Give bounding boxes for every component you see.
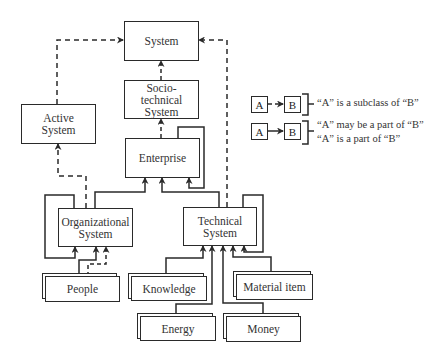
legend-box-b: B [284, 123, 301, 140]
legend-subclass-text: “A” is a subclass of “B” [317, 97, 419, 108]
node-label: Enterprise [139, 152, 186, 164]
node-label: Energy [161, 323, 194, 335]
node-material-item: Material item [236, 274, 313, 300]
node-system: System [124, 21, 199, 61]
legend-label: A [256, 126, 264, 138]
legend-label: B [289, 99, 296, 111]
node-energy: Energy [140, 316, 216, 341]
node-socio-technical-system: Socio- technical System [124, 80, 199, 119]
node-organizational-system: Organizational System [58, 208, 133, 247]
legend-box-a: A [251, 123, 268, 140]
legend-box-b: B [284, 96, 301, 113]
legend-is-part-text: “A” is a part of “B” [317, 133, 400, 144]
node-label: People [67, 283, 98, 295]
node-enterprise: Enterprise [125, 138, 200, 178]
node-people: People [45, 276, 120, 302]
node-technical-system: Technical System [183, 207, 257, 246]
node-money: Money [226, 316, 301, 342]
node-knowledge: Knowledge [131, 276, 207, 301]
legend-label: A [256, 99, 264, 111]
node-label: Technical System [198, 215, 243, 239]
legend-box-a: A [251, 96, 268, 113]
node-label: Material item [243, 281, 305, 293]
node-label: Money [247, 323, 280, 335]
node-active-system: Active System [21, 104, 96, 144]
node-label: Organizational System [61, 216, 129, 240]
node-label: Socio- technical System [141, 82, 183, 118]
diagram-connectors [0, 0, 442, 362]
legend-may-be-part-text: “A” may be a part of “B” [317, 119, 424, 130]
node-label: Knowledge [142, 283, 195, 295]
legend-label: B [289, 126, 296, 138]
node-label: System [145, 35, 179, 47]
node-label: Active System [42, 112, 76, 136]
